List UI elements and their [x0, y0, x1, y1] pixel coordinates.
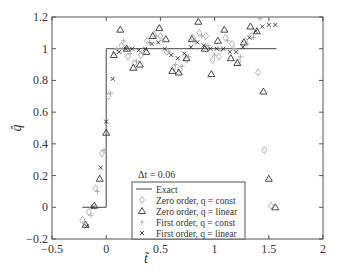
x-marker — [267, 23, 271, 27]
triangle-marker — [247, 23, 254, 29]
plus-marker — [180, 64, 185, 69]
plus-marker — [199, 34, 204, 39]
y-tick-label: −0.2 — [26, 232, 48, 246]
x-marker — [182, 51, 186, 55]
x-marker — [234, 50, 238, 54]
y-tick-label: 0 — [42, 200, 48, 214]
plus-marker — [115, 46, 120, 51]
legend-entry-label: Zero order, q = linear — [156, 207, 238, 217]
x-marker — [260, 25, 264, 29]
y-tick-labels: −0.200.20.40.60.811.2 — [26, 10, 48, 246]
legend: ExactZero order, q = constZero order, q … — [132, 182, 245, 239]
legend-entry-label: First order, q = linear — [156, 229, 238, 239]
x-marker — [156, 40, 160, 44]
triangle-marker — [195, 18, 202, 24]
x-tick-labels: −0.500.511.52 — [41, 242, 326, 256]
triangle-marker — [208, 71, 215, 77]
plus-marker — [108, 91, 113, 96]
triangle-marker — [96, 175, 103, 181]
plus-marker — [82, 221, 87, 226]
x-marker — [228, 50, 232, 54]
x-marker — [169, 53, 173, 57]
legend-entry-label: First order, q = const — [156, 218, 235, 228]
legend-entry-label: Exact — [156, 185, 178, 195]
plus-marker — [128, 51, 133, 56]
triangle-marker — [156, 25, 163, 31]
chart: −0.500.511.52 −0.200.20.40.60.811.2 t̃ q… — [0, 0, 342, 277]
x-marker — [176, 56, 180, 60]
x-marker — [99, 166, 103, 170]
triangle-marker — [117, 26, 124, 32]
y-tick-label: 0.8 — [33, 73, 48, 87]
plus-marker — [89, 213, 94, 218]
y-tick-label: 1.2 — [33, 10, 48, 24]
x-tick-label: 2 — [320, 242, 326, 256]
x-marker — [111, 77, 115, 81]
plus-marker — [225, 38, 230, 43]
triangle-marker — [265, 175, 272, 181]
y-tick-label: 0.4 — [33, 137, 48, 151]
x-tick-label: 1 — [212, 242, 218, 256]
triangle-marker — [227, 55, 234, 61]
delta-t-annotation: Δt = 0.06 — [138, 169, 175, 180]
x-tick-label: 1.5 — [261, 242, 276, 256]
y-tick-label: 0.2 — [33, 169, 48, 183]
x-tick-label: 0 — [103, 242, 109, 256]
diamond-marker — [255, 69, 260, 76]
triangle-marker — [221, 26, 228, 32]
x-marker — [273, 23, 277, 27]
y-axis-label: q̂ — [9, 125, 24, 132]
diamond-marker — [262, 147, 267, 154]
triangle-marker — [260, 88, 267, 94]
plus-marker — [95, 189, 100, 194]
diamond-marker — [203, 33, 208, 40]
plus-marker — [167, 49, 172, 54]
x-tick-label: 0.5 — [153, 242, 168, 256]
triangle-marker — [214, 37, 221, 43]
y-tick-label: 1 — [42, 42, 48, 56]
legend-entry-label: Zero order, q = const — [156, 196, 236, 206]
triangle-marker — [136, 61, 143, 67]
x-axis-label: t̃ — [144, 251, 150, 266]
y-tick-label: 0.6 — [33, 105, 48, 119]
diamond-marker — [216, 53, 221, 60]
plus-marker — [173, 62, 178, 67]
